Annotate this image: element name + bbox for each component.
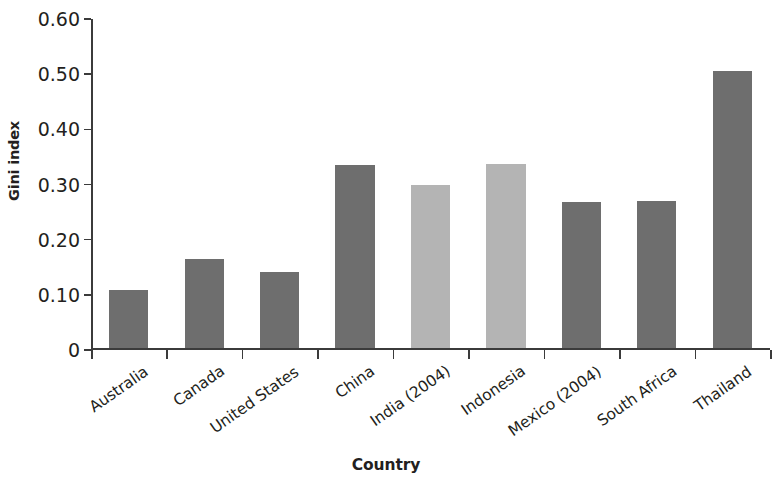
bar (411, 185, 450, 349)
x-axis-tick (166, 350, 168, 359)
x-axis-tick-label: China (333, 364, 378, 402)
y-axis-tick (84, 18, 91, 20)
x-axis-tick-label: South Africa (595, 364, 680, 430)
x-axis-tick-label: Thailand (692, 364, 755, 414)
y-axis-tick (84, 129, 91, 131)
bar (637, 201, 676, 348)
bar (562, 202, 601, 349)
y-axis-tick-label: 0.40 (38, 120, 80, 139)
x-axis-tick-label: Canada (171, 364, 228, 410)
bar (185, 259, 224, 349)
x-axis-tick (619, 350, 621, 359)
x-axis-tick (695, 350, 697, 359)
x-axis-tick (544, 350, 546, 359)
y-axis-line (91, 19, 93, 350)
y-axis-tick-label: 0 (68, 341, 80, 360)
y-axis-tick-label: 0.60 (38, 10, 80, 29)
y-axis-tick (84, 349, 91, 351)
x-axis-line (91, 348, 770, 350)
x-axis-tick-label: Australia (87, 364, 151, 416)
y-axis-title: Gini index (6, 91, 22, 231)
bar (335, 165, 374, 348)
y-axis-tick-label: 0.20 (38, 230, 80, 249)
x-axis-tick (393, 350, 395, 359)
y-axis-tick-label: 0.50 (38, 65, 80, 84)
x-axis-tick-label: India (2004) (368, 364, 453, 430)
x-axis-tick-label: Indonesia (459, 364, 529, 419)
plot-area: 00.100.200.300.400.500.60 (91, 19, 770, 350)
bar-chart-figure: Gini index 00.100.200.300.400.500.60 Aus… (0, 0, 772, 486)
y-axis-tick (84, 184, 91, 186)
x-axis-tick (317, 350, 319, 359)
y-axis-tick-label: 0.10 (38, 285, 80, 304)
bar (260, 272, 299, 349)
x-axis-tick (770, 350, 772, 359)
y-axis-tick (84, 239, 91, 241)
bar (109, 290, 148, 348)
x-axis-tick (91, 350, 93, 359)
bar (486, 164, 525, 348)
bar (713, 71, 752, 348)
x-axis-title: Country (0, 456, 772, 474)
x-axis-tick (468, 350, 470, 359)
y-axis-tick (84, 73, 91, 75)
y-axis-tick-label: 0.30 (38, 175, 80, 194)
y-axis-tick (84, 294, 91, 296)
x-axis-tick (242, 350, 244, 359)
